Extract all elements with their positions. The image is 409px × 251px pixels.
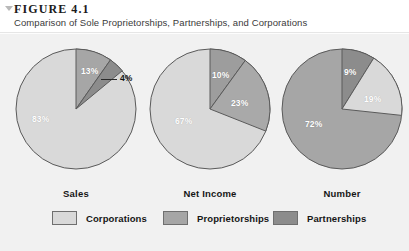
figure-container: FIGURE 4.1 Comparison of Sole Proprietor… xyxy=(0,0,409,251)
charts-panel: 13% 83% 4% Sales 10% 23% 67% Net Income xyxy=(0,34,409,251)
pie-canvas xyxy=(278,45,406,177)
pie-svg-sales xyxy=(12,45,140,173)
legend-label-proprietorships: Proprietorships xyxy=(197,213,269,224)
pie-caption-net-income: Net Income xyxy=(142,188,278,199)
slice-label-proprietorships: 13% xyxy=(81,66,98,76)
slice-label-corporations: 67% xyxy=(175,116,192,126)
slice-label-corporations: 19% xyxy=(364,94,381,104)
legend-label-corporations: Corporations xyxy=(86,213,147,224)
figure-subtitle: Comparison of Sole Proprietorships, Part… xyxy=(14,17,307,28)
callout-leader-line xyxy=(101,79,117,80)
pie-chart-sales: 13% 83% 4% Sales xyxy=(8,45,144,205)
pie-chart-net-income: 10% 23% 67% Net Income xyxy=(142,45,278,205)
triangle-down-icon xyxy=(5,6,13,11)
pie-chart-number: 9% 19% 72% Number xyxy=(274,45,409,205)
legend-label-partnerships: Partnerships xyxy=(307,213,366,224)
pie-caption-number: Number xyxy=(274,188,409,199)
slice-label-partnerships-callout: 4% xyxy=(120,73,133,83)
slice-label-proprietorships: 23% xyxy=(231,98,248,108)
legend-swatch-proprietorships xyxy=(163,211,188,225)
slice-label-partnerships: 9% xyxy=(344,67,357,77)
slice-label-proprietorships: 72% xyxy=(305,119,322,129)
figure-header: FIGURE 4.1 Comparison of Sole Proprietor… xyxy=(0,0,409,33)
header-divider xyxy=(0,32,409,33)
slice-label-partnerships: 10% xyxy=(212,70,229,80)
chart-legend: Corporations Proprietorships Partnership… xyxy=(0,210,409,244)
legend-swatch-partnerships xyxy=(273,211,298,225)
pie-caption-sales: Sales xyxy=(8,188,144,199)
slice-label-corporations: 83% xyxy=(32,114,49,124)
figure-number-label: FIGURE 4.1 xyxy=(14,2,90,17)
pie-svg-number xyxy=(278,45,406,173)
legend-swatch-corporations xyxy=(52,211,77,225)
pie-svg-net-income xyxy=(146,45,274,173)
pie-canvas xyxy=(146,45,274,177)
pie-canvas xyxy=(12,45,140,177)
